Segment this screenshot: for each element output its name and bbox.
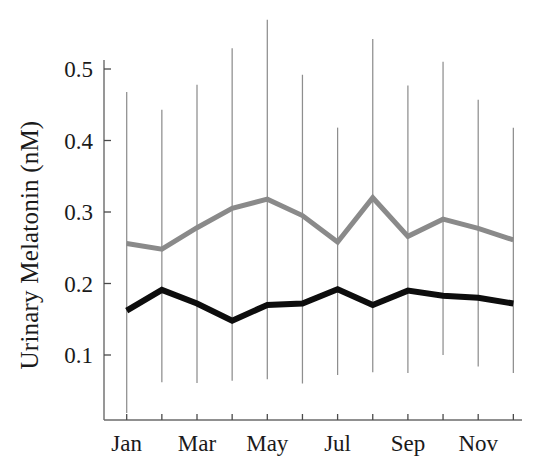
y-tick-label: 0.3 xyxy=(64,200,93,225)
error-bar-group xyxy=(127,20,514,413)
x-tick-label-may: May xyxy=(246,431,289,456)
series-group xyxy=(127,198,514,321)
y-axis-title: Urinary Melatonin (nM) xyxy=(16,121,44,370)
x-tick-label-group: JanMarMayJulSepNov xyxy=(111,431,498,456)
y-tick-label: 0.5 xyxy=(64,57,93,82)
x-tick-label-sep: Sep xyxy=(391,431,426,456)
melatonin-chart-figure: 0.50.40.30.20.1 JanMarMayJulSepNov Urina… xyxy=(0,0,541,475)
x-tick-label-mar: Mar xyxy=(178,431,217,456)
x-tick-label-jan: Jan xyxy=(111,431,142,456)
data-line-lower-series xyxy=(127,289,514,320)
y-tick-label: 0.4 xyxy=(64,129,93,154)
chart-canvas: 0.50.40.30.20.1 JanMarMayJulSepNov Urina… xyxy=(0,0,541,475)
y-tick-label: 0.2 xyxy=(64,272,93,297)
y-tick-label-group: 0.50.40.30.20.1 xyxy=(64,57,93,368)
x-tick-label-jul: Jul xyxy=(324,431,351,456)
axis-group xyxy=(104,60,522,420)
data-line-upper-series xyxy=(127,198,514,249)
x-tick-label-nov: Nov xyxy=(458,431,498,456)
y-tick-label: 0.1 xyxy=(64,343,93,368)
